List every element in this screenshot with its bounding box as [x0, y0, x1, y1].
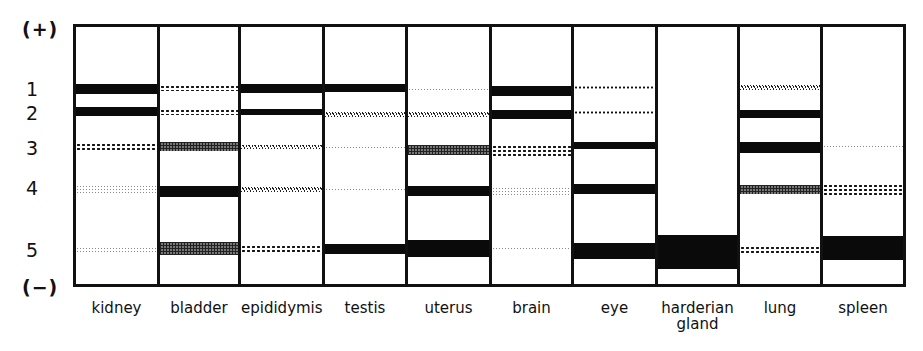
lane-label-text: epididymis — [241, 300, 322, 316]
lane-kidney — [76, 24, 157, 287]
lane-brain — [492, 24, 571, 287]
band-4-light — [325, 188, 405, 192]
band-5-solid — [658, 235, 737, 269]
lane-label-spleen: spleen — [823, 300, 903, 316]
band-1-thin — [574, 86, 655, 89]
band-5-solid — [325, 244, 405, 254]
lane-epididymis — [241, 24, 322, 287]
lane-divider — [405, 24, 408, 287]
band-number-3: 3 — [22, 137, 42, 159]
band-1-light — [408, 88, 489, 92]
lane-lung — [740, 24, 820, 287]
lane-label-epididymis: epididymis — [241, 300, 322, 316]
lane-label-text: lung — [740, 300, 820, 316]
lane-divider — [322, 24, 325, 287]
lane-label-testis: testis — [325, 300, 405, 316]
lane-label-bladder: bladder — [160, 300, 238, 316]
band-3-dense — [408, 145, 489, 155]
band-2-wavy — [325, 112, 405, 117]
band-4-solid — [574, 184, 655, 194]
band-2-wavy — [408, 112, 489, 117]
band-1-solid — [492, 86, 571, 96]
band-4-solid — [408, 186, 489, 196]
band-5-light — [76, 247, 157, 252]
band-5-solid — [408, 240, 489, 257]
band-3-wavy — [241, 145, 322, 149]
lane-label-lung: lung — [740, 300, 820, 316]
band-number-2: 2 — [22, 102, 42, 124]
lane-label-text: harderian — [658, 300, 737, 316]
lane-harderian — [658, 24, 737, 287]
lane-label-text: eye — [574, 300, 655, 316]
lane-divider — [157, 24, 160, 287]
lane-divider — [489, 24, 492, 287]
lane-divider — [238, 24, 241, 287]
lane-label-text: brain — [492, 300, 571, 316]
band-1-solid — [241, 84, 322, 93]
lane-label-uterus: uterus — [408, 300, 489, 316]
band-number-5: 5 — [22, 239, 42, 261]
band-4-light — [492, 187, 571, 195]
band-5-dotted — [740, 246, 820, 253]
band-3-light — [325, 146, 405, 150]
band-2-dotted — [160, 109, 238, 115]
band-5-dotted — [241, 245, 322, 254]
band-4-solid — [160, 186, 238, 197]
band-5-solid — [823, 236, 903, 260]
anode-label: (+) — [22, 18, 58, 40]
band-2-thin — [574, 111, 655, 114]
lane-label-brain: brain — [492, 300, 571, 316]
band-3-solid — [574, 142, 655, 149]
band-2-solid — [492, 110, 571, 119]
lane-divider — [571, 24, 574, 287]
lane-bladder — [160, 24, 238, 287]
band-4-light — [76, 185, 157, 193]
lane-label-kidney: kidney — [76, 300, 157, 316]
lane-uterus — [408, 24, 489, 287]
band-5-solid — [574, 243, 655, 259]
lane-spleen — [823, 24, 903, 287]
band-4-dense — [740, 185, 820, 194]
cathode-label: (−) — [22, 276, 58, 298]
lane-divider — [820, 24, 823, 287]
band-3-light — [823, 145, 903, 149]
band-2-solid — [241, 109, 322, 115]
band-1-solid — [325, 84, 405, 92]
band-1-solid — [76, 84, 157, 94]
band-1-wavy — [740, 85, 820, 90]
lane-divider — [655, 24, 658, 287]
band-4-wavy — [241, 187, 322, 192]
lane-label-text: uterus — [408, 300, 489, 316]
lane-label-text: spleen — [823, 300, 903, 316]
band-1-dotted — [160, 85, 238, 91]
band-3-dotted — [492, 145, 571, 156]
band-5-dense — [160, 242, 238, 255]
lane-label-text: kidney — [76, 300, 157, 316]
lane-testis — [325, 24, 405, 287]
lane-label-text: bladder — [160, 300, 238, 316]
band-3-solid — [740, 142, 820, 153]
band-2-solid — [740, 110, 820, 118]
lane-label-text-line2: gland — [658, 316, 737, 332]
band-number-1: 1 — [22, 78, 42, 100]
band-number-4: 4 — [22, 177, 42, 199]
band-3-dense — [160, 142, 238, 151]
lane-label-harderian: harderiangland — [658, 300, 737, 332]
band-3-dotted — [76, 143, 157, 152]
band-4-dotted — [823, 184, 903, 196]
lane-eye — [574, 24, 655, 287]
band-5-light — [492, 247, 571, 251]
lane-label-text: testis — [325, 300, 405, 316]
lane-divider — [737, 24, 740, 287]
electrophoresis-zymogram: (+) (−) 12345 kidneybladderepididymistes… — [0, 0, 923, 351]
lane-label-eye: eye — [574, 300, 655, 316]
band-2-solid — [76, 107, 157, 116]
